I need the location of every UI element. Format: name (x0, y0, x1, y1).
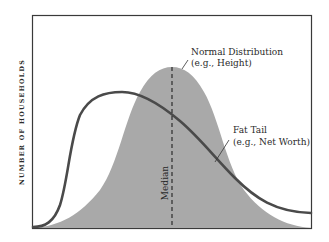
normal-annotation-title: Normal Distribution (191, 47, 283, 57)
median-label: Median (160, 166, 170, 201)
distribution-chart: Median NUMBER OF HOUSEHOLDS Normal Distr… (0, 0, 329, 242)
normal-annotation-sub: (e.g., Height) (191, 58, 252, 68)
fat-tail-annotation-sub: (e.g., Net Worth) (233, 137, 310, 147)
fat-tail-annotation-title: Fat Tail (233, 125, 267, 135)
y-axis-label: NUMBER OF HOUSEHOLDS (18, 59, 25, 185)
